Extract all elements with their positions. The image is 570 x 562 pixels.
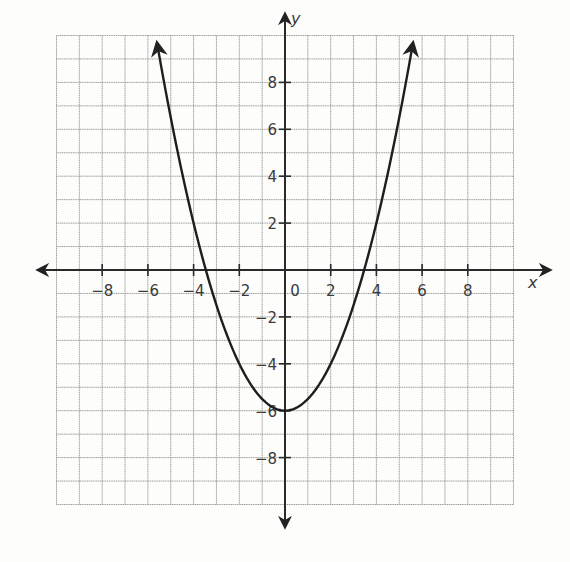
y-tick-label: 2 bbox=[267, 215, 277, 233]
x-tick-label: 0 bbox=[290, 282, 300, 300]
y-tick-label: 4 bbox=[267, 168, 277, 186]
y-tick-label: −6 bbox=[255, 403, 277, 421]
x-tick-label: −4 bbox=[183, 282, 205, 300]
x-tick-label: 4 bbox=[372, 282, 382, 300]
y-tick-label: −4 bbox=[255, 356, 277, 374]
x-tick-labels: −8−6−4−202468 bbox=[91, 282, 472, 300]
y-axis-label: y bbox=[290, 9, 301, 28]
x-axis-label: x bbox=[527, 273, 538, 292]
y-tick-label: −2 bbox=[255, 309, 277, 327]
y-tick-label: 8 bbox=[267, 74, 277, 92]
x-tick-label: −8 bbox=[91, 282, 113, 300]
y-tick-label: 6 bbox=[267, 121, 277, 139]
x-tick-label: 2 bbox=[326, 282, 336, 300]
x-tick-label: 8 bbox=[463, 282, 473, 300]
y-tick-label: −8 bbox=[255, 450, 277, 468]
axes bbox=[38, 14, 550, 527]
x-tick-label: −2 bbox=[228, 282, 250, 300]
x-tick-label: 6 bbox=[417, 282, 427, 300]
coordinate-plane: −8−6−4−202468 8642−2−4−6−8 x y bbox=[0, 0, 570, 562]
x-tick-label: −6 bbox=[137, 282, 159, 300]
